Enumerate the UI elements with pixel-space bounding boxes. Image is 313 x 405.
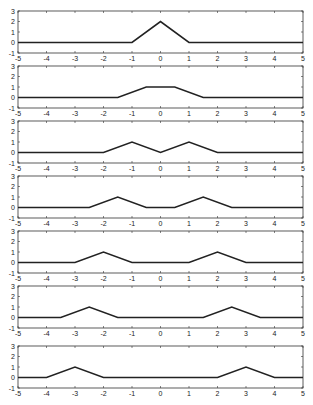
x-tick-label: -5 xyxy=(15,275,21,282)
x-tick-label: 4 xyxy=(273,165,277,172)
x-tick-label: -2 xyxy=(100,390,106,397)
x-tick-label: 3 xyxy=(244,390,248,397)
subplot-panel-5: -5-4-3-2-1012345-10123 xyxy=(9,228,305,283)
y-tick-label: 0 xyxy=(11,39,15,46)
x-tick-label: -2 xyxy=(100,330,106,337)
x-tick-label: -4 xyxy=(43,330,49,337)
x-tick-label: -2 xyxy=(100,275,106,282)
x-tick-label: -1 xyxy=(129,390,135,397)
data-line xyxy=(18,87,303,98)
x-tick-label: -5 xyxy=(15,165,21,172)
y-tick-label: 0 xyxy=(11,94,15,101)
x-tick-label: 5 xyxy=(301,110,305,117)
data-line xyxy=(18,142,303,153)
x-tick-label: 4 xyxy=(273,55,277,62)
axes-frame xyxy=(18,286,303,328)
axes-frame xyxy=(18,176,303,218)
x-tick-label: 4 xyxy=(273,330,277,337)
x-tick-label: -3 xyxy=(72,55,78,62)
x-tick-label: 0 xyxy=(159,55,163,62)
y-tick-label: 1 xyxy=(11,29,15,36)
y-tick-label: 3 xyxy=(11,343,15,350)
y-tick-label: 1 xyxy=(11,249,15,256)
axes-frame xyxy=(18,346,303,388)
y-tick-label: 2 xyxy=(11,73,15,80)
x-tick-label: -3 xyxy=(72,220,78,227)
x-tick-label: -5 xyxy=(15,390,21,397)
x-tick-label: 5 xyxy=(301,275,305,282)
y-tick-label: -1 xyxy=(9,325,15,332)
x-tick-label: -5 xyxy=(15,110,21,117)
y-tick-label: 3 xyxy=(11,118,15,125)
x-tick-label: 1 xyxy=(187,390,191,397)
subplot-panel-1: -5-4-3-2-1012345-10123 xyxy=(9,8,305,63)
x-tick-label: 5 xyxy=(301,55,305,62)
x-tick-label: -2 xyxy=(100,220,106,227)
x-tick-label: 0 xyxy=(159,330,163,337)
y-tick-label: 2 xyxy=(11,293,15,300)
x-tick-label: 0 xyxy=(159,275,163,282)
y-tick-label: 1 xyxy=(11,194,15,201)
x-tick-label: -4 xyxy=(43,110,49,117)
y-tick-label: 2 xyxy=(11,18,15,25)
y-tick-label: 2 xyxy=(11,128,15,135)
x-tick-label: 1 xyxy=(187,55,191,62)
y-tick-label: 0 xyxy=(11,259,15,266)
y-tick-label: 0 xyxy=(11,314,15,321)
y-tick-label: 3 xyxy=(11,63,15,70)
y-tick-label: 1 xyxy=(11,84,15,91)
x-tick-label: 1 xyxy=(187,220,191,227)
y-tick-label: 3 xyxy=(11,173,15,180)
y-tick-label: -1 xyxy=(9,215,15,222)
x-tick-label: 0 xyxy=(159,220,163,227)
x-tick-label: 4 xyxy=(273,110,277,117)
x-tick-label: -3 xyxy=(72,390,78,397)
x-tick-label: -5 xyxy=(15,220,21,227)
x-tick-label: -1 xyxy=(129,165,135,172)
x-tick-label: 5 xyxy=(301,330,305,337)
axes-frame xyxy=(18,121,303,163)
x-tick-label: -1 xyxy=(129,220,135,227)
subplot-panel-6: -5-4-3-2-1012345-10123 xyxy=(9,283,305,338)
x-tick-label: -4 xyxy=(43,390,49,397)
x-tick-label: 3 xyxy=(244,220,248,227)
x-tick-label: 2 xyxy=(216,165,220,172)
y-tick-label: 2 xyxy=(11,183,15,190)
x-tick-label: 2 xyxy=(216,110,220,117)
x-tick-label: -2 xyxy=(100,165,106,172)
x-tick-label: 5 xyxy=(301,220,305,227)
x-tick-label: 4 xyxy=(273,390,277,397)
x-tick-label: -5 xyxy=(15,330,21,337)
x-tick-label: -3 xyxy=(72,165,78,172)
x-tick-label: -4 xyxy=(43,220,49,227)
y-tick-label: 2 xyxy=(11,353,15,360)
x-tick-label: 3 xyxy=(244,275,248,282)
x-tick-label: 1 xyxy=(187,275,191,282)
x-tick-label: 0 xyxy=(159,165,163,172)
y-tick-label: -1 xyxy=(9,160,15,167)
x-tick-label: -1 xyxy=(129,275,135,282)
y-tick-label: -1 xyxy=(9,50,15,57)
x-tick-label: 3 xyxy=(244,55,248,62)
x-tick-label: 0 xyxy=(159,110,163,117)
x-tick-label: -1 xyxy=(129,55,135,62)
x-tick-label: 2 xyxy=(216,390,220,397)
y-tick-label: -1 xyxy=(9,270,15,277)
y-tick-label: 0 xyxy=(11,204,15,211)
x-tick-label: -4 xyxy=(43,275,49,282)
x-tick-label: -3 xyxy=(72,110,78,117)
x-tick-label: 4 xyxy=(273,275,277,282)
axes-frame xyxy=(18,231,303,273)
data-line xyxy=(18,307,303,318)
x-tick-label: 2 xyxy=(216,220,220,227)
x-tick-label: -1 xyxy=(129,330,135,337)
y-tick-label: 3 xyxy=(11,283,15,290)
stacked-line-chart-figure: -5-4-3-2-1012345-10123-5-4-3-2-1012345-1… xyxy=(0,0,313,405)
data-line xyxy=(18,252,303,263)
x-tick-label: -4 xyxy=(43,55,49,62)
y-tick-label: 2 xyxy=(11,238,15,245)
x-tick-label: 2 xyxy=(216,330,220,337)
data-line xyxy=(18,197,303,208)
x-tick-label: 3 xyxy=(244,110,248,117)
x-tick-label: 5 xyxy=(301,165,305,172)
